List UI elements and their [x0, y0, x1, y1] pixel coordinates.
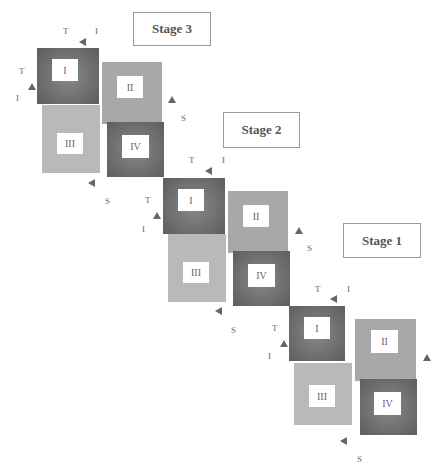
- stage-1-box-i: I: [289, 306, 345, 361]
- stage-1-left-t: T: [272, 324, 278, 333]
- stage-3-box-ii: II: [102, 62, 162, 124]
- box-iii-label: III: [183, 262, 209, 283]
- left-arrow-icon: [79, 38, 86, 46]
- stage-1-top-t: T: [315, 285, 321, 294]
- stage-3-left-t: T: [19, 67, 25, 76]
- stage-2-left-t: T: [145, 196, 151, 205]
- box-i-label: I: [178, 189, 204, 211]
- stage-2-label: Stage 2: [223, 112, 300, 148]
- stage-2-box-iii: III: [168, 234, 226, 302]
- stage-3-bottom-s: S: [105, 197, 110, 206]
- stage-3-box-i: I: [37, 48, 99, 104]
- stage-3-label: Stage 3: [133, 12, 211, 46]
- stage-2-top-t: T: [189, 156, 195, 165]
- box-i-label: I: [52, 59, 78, 81]
- stage-3-right-s: S: [181, 114, 186, 123]
- stage-3-box-iv: IV: [107, 122, 164, 177]
- box-ii-label: II: [371, 330, 398, 353]
- stage-2-box-iv: IV: [233, 251, 290, 306]
- stage-2-left-i: I: [142, 225, 145, 234]
- left-arrow-icon: [340, 437, 347, 445]
- stage-3-top-i: I: [95, 27, 98, 36]
- stage-1-bottom-s: S: [357, 455, 362, 464]
- box-iv-label: IV: [374, 392, 401, 415]
- box-ii-label: II: [117, 76, 143, 98]
- stage-2-box-ii: II: [228, 191, 288, 253]
- stage-1-box-iv: IV: [360, 379, 417, 435]
- left-arrow-icon: [205, 167, 212, 175]
- box-iv-label: IV: [248, 264, 275, 287]
- stage-2-bottom-s: S: [231, 326, 236, 335]
- left-arrow-icon: [88, 179, 95, 187]
- up-arrow-icon: [168, 96, 176, 103]
- stage-3-top-t: T: [63, 27, 69, 36]
- up-arrow-icon: [423, 354, 431, 361]
- left-arrow-icon: [330, 295, 337, 303]
- box-i-label: I: [304, 317, 330, 339]
- box-ii-label: II: [243, 205, 269, 227]
- box-iii-label: III: [309, 385, 335, 407]
- stage-1-box-iii: III: [294, 363, 352, 425]
- stage-2-right-s: S: [307, 244, 312, 253]
- stage-3-left-i: I: [16, 94, 19, 103]
- box-iii-label: III: [57, 133, 83, 154]
- up-arrow-icon: [295, 227, 303, 234]
- stage-1-box-ii: II: [355, 319, 416, 381]
- stage-1-top-i: I: [347, 285, 350, 294]
- up-arrow-icon: [280, 340, 288, 347]
- up-arrow-icon: [153, 212, 161, 219]
- stage-2-top-i: I: [222, 156, 225, 165]
- box-iv-label: IV: [122, 135, 149, 158]
- stage-1-label: Stage 1: [343, 223, 421, 258]
- stage-1-left-i: I: [268, 352, 271, 361]
- left-arrow-icon: [215, 307, 222, 315]
- stage-2-box-i: I: [163, 178, 225, 234]
- up-arrow-icon: [28, 83, 36, 90]
- stage-3-box-iii: III: [42, 105, 100, 173]
